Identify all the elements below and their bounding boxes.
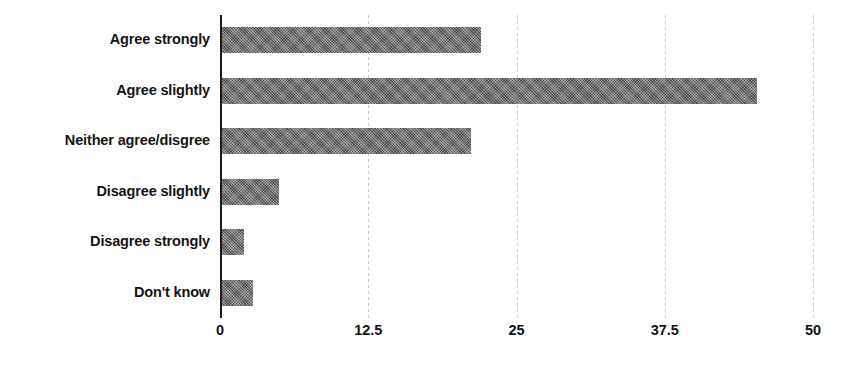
bar-chart: Agree stronglyAgree slightlyNeither agre… <box>0 0 866 370</box>
value-axis-tick-labels: 012.52537.550 <box>220 322 813 348</box>
bar-row <box>220 78 813 104</box>
category-label: Don't know <box>0 284 210 300</box>
category-label: Agree slightly <box>0 82 210 98</box>
plot-area <box>220 15 813 318</box>
gridline-12.5 <box>368 15 369 318</box>
bar <box>220 229 244 255</box>
category-label: Disagree slightly <box>0 183 210 199</box>
bar <box>220 78 757 104</box>
category-label: Neither agree/disgree <box>0 132 210 148</box>
tick-label: 37.5 <box>651 322 679 338</box>
gridline-25 <box>517 15 518 318</box>
category-label: Disagree strongly <box>0 233 210 249</box>
category-axis-labels: Agree stronglyAgree slightlyNeither agre… <box>0 15 210 318</box>
bar <box>220 179 279 205</box>
gridline-50 <box>813 15 814 318</box>
bar-row <box>220 128 813 154</box>
bar <box>220 128 471 154</box>
tick-label: 50 <box>805 322 821 338</box>
gridline-37.5 <box>665 15 666 318</box>
tick-label: 25 <box>508 322 524 338</box>
tick-label: 0 <box>216 322 224 338</box>
bar <box>220 27 481 53</box>
bar <box>220 280 253 306</box>
bar-row <box>220 280 813 306</box>
bar-row <box>220 27 813 53</box>
tick-label: 12.5 <box>354 322 382 338</box>
value-axis-line <box>220 15 222 318</box>
category-label: Agree strongly <box>0 31 210 47</box>
bar-row <box>220 229 813 255</box>
bar-row <box>220 179 813 205</box>
